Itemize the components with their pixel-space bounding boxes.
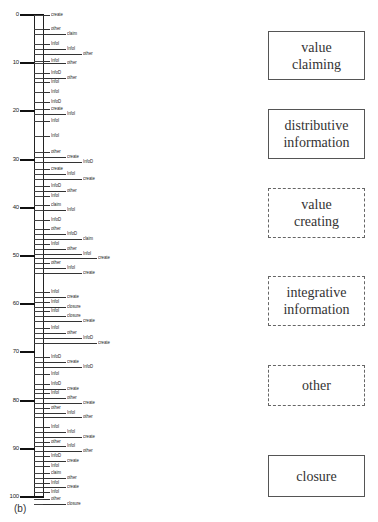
event-label: InfoI — [67, 45, 75, 51]
event-connector — [43, 504, 66, 505]
tick-label: 40 — [0, 204, 19, 210]
event-label: other — [67, 329, 77, 335]
event-connector — [43, 234, 66, 235]
event-label: InfoI — [67, 442, 75, 448]
tick-label: 60 — [0, 300, 19, 306]
tick-label: 70 — [0, 348, 19, 354]
event-label: create — [83, 399, 95, 405]
event-connector — [43, 357, 50, 358]
event-label: InfoI — [67, 170, 75, 176]
event-connector — [43, 152, 50, 153]
major-tick — [20, 110, 35, 112]
event-label: InfoI — [51, 57, 59, 63]
major-tick — [20, 351, 35, 353]
event-connector — [43, 499, 50, 500]
event-label: InfoD — [51, 216, 61, 222]
event-connector — [43, 49, 66, 50]
event-label: other — [67, 474, 77, 480]
event-connector — [43, 114, 66, 115]
major-tick — [20, 400, 35, 402]
event-connector — [43, 384, 50, 385]
event-connector — [43, 196, 50, 197]
category-line-1: closure — [296, 468, 336, 485]
event-connector — [43, 413, 66, 414]
event-connector — [43, 210, 66, 211]
event-label: InfoI — [51, 78, 59, 84]
event-label: InfoI — [51, 324, 59, 330]
category-line-2: information — [283, 301, 349, 318]
event-connector — [43, 483, 50, 484]
event-connector — [43, 437, 82, 438]
event-label: InfoI — [51, 240, 59, 246]
event-label: other — [67, 394, 77, 400]
event-label: InfoI — [51, 288, 59, 294]
tick-label: 10 — [0, 59, 19, 65]
event-label: other — [67, 74, 77, 80]
event-connector — [43, 109, 50, 110]
event-label: InfoD — [51, 380, 61, 386]
event-connector — [43, 15, 50, 16]
event-connector — [43, 162, 82, 163]
event-label: other — [67, 187, 77, 193]
event-label: InfoD — [51, 182, 61, 188]
event-label: other — [51, 225, 61, 231]
event-connector — [43, 249, 66, 250]
event-label: create — [67, 457, 79, 463]
event-label: other — [83, 447, 93, 453]
event-connector — [43, 34, 66, 35]
event-connector — [43, 367, 82, 368]
category-line-1: value — [292, 39, 341, 56]
event-label: InfoD — [51, 98, 61, 104]
event-connector — [43, 205, 50, 206]
category-line-1: value — [294, 196, 339, 213]
category-value-claiming: valueclaiming — [268, 31, 365, 80]
major-tick — [20, 14, 35, 16]
event-label: InfoI — [51, 479, 59, 485]
event-label: other — [51, 25, 61, 31]
category-closure: closure — [268, 455, 365, 497]
category-integrative-information: integrativeinformation — [268, 276, 365, 326]
event-label: InfoI — [51, 370, 59, 376]
event-label: InfoI — [67, 409, 75, 415]
event-label: create — [51, 11, 63, 17]
category-line-1: distributive — [283, 117, 349, 134]
event-connector — [43, 393, 50, 394]
major-tick — [20, 496, 35, 498]
event-connector — [43, 263, 50, 264]
event-label: create — [51, 165, 63, 171]
event-label: InfoI — [51, 307, 59, 313]
event-label: create — [83, 317, 95, 323]
event-label: create — [83, 269, 95, 275]
event-label: other — [83, 50, 93, 56]
tick-label: 80 — [0, 397, 19, 403]
event-connector — [43, 254, 82, 255]
event-connector — [43, 466, 50, 467]
event-label: InfoI — [51, 88, 59, 94]
event-label: InfoD — [83, 158, 93, 164]
event-label: create — [67, 385, 79, 391]
category-line-1: integrative — [283, 284, 349, 301]
event-label: other — [67, 245, 77, 251]
event-connector — [43, 374, 50, 375]
event-connector — [43, 408, 50, 409]
event-label: InfoI — [51, 389, 59, 395]
event-label: create — [67, 293, 79, 299]
event-label: InfoD — [67, 230, 77, 236]
event-label: InfoI — [67, 264, 75, 270]
event-connector — [43, 239, 82, 240]
event-connector — [43, 417, 82, 418]
event-connector — [43, 362, 66, 363]
major-tick — [20, 448, 35, 450]
event-connector — [43, 398, 66, 399]
event-label: create — [67, 483, 79, 489]
event-connector — [43, 102, 50, 103]
event-label: closure — [67, 500, 81, 506]
event-label: InfoI — [51, 117, 59, 123]
category-line-2: claiming — [292, 56, 341, 73]
timeline-right-rail — [43, 15, 44, 497]
tick-label: 50 — [0, 252, 19, 258]
event-label: create — [51, 105, 63, 111]
event-connector — [43, 292, 50, 293]
event-label: claim — [83, 235, 93, 241]
timeline-bottom-cap — [34, 496, 44, 498]
